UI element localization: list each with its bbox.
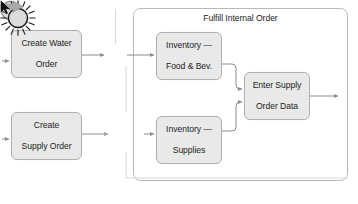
task-label-line2: Food & Bev. [164, 61, 214, 72]
task-label-line1: Inventory — [164, 40, 214, 51]
task-label-line2: Order Data [251, 101, 304, 112]
task-label-line1: Enter Supply [251, 80, 304, 91]
task-enter-supply-order-data[interactable]: Enter Supply Order Data [244, 72, 310, 120]
task-label-line1: Create [19, 120, 73, 131]
diagram-canvas: Create Water Order Create Supply Order I… [0, 0, 358, 204]
task-label-line2: Order [19, 59, 73, 70]
task-inventory-supplies[interactable]: Inventory — Supplies [156, 116, 222, 164]
task-create-supply-order[interactable]: Create Supply Order [11, 112, 82, 160]
task-label-line2: Supply Order [19, 141, 73, 152]
task-label-line2: Supplies [164, 145, 214, 156]
task-label-line1: Create Water [19, 38, 73, 49]
task-inventory-food-bev[interactable]: Inventory — Food & Bev. [156, 32, 222, 80]
pool-title: Fulfill Internal Order [133, 13, 348, 23]
task-create-water-order[interactable]: Create Water Order [11, 30, 82, 78]
task-label-line1: Inventory — [164, 124, 214, 135]
bottom-caption [4, 192, 204, 203]
arrow-cursor-icon [0, 0, 11, 15]
